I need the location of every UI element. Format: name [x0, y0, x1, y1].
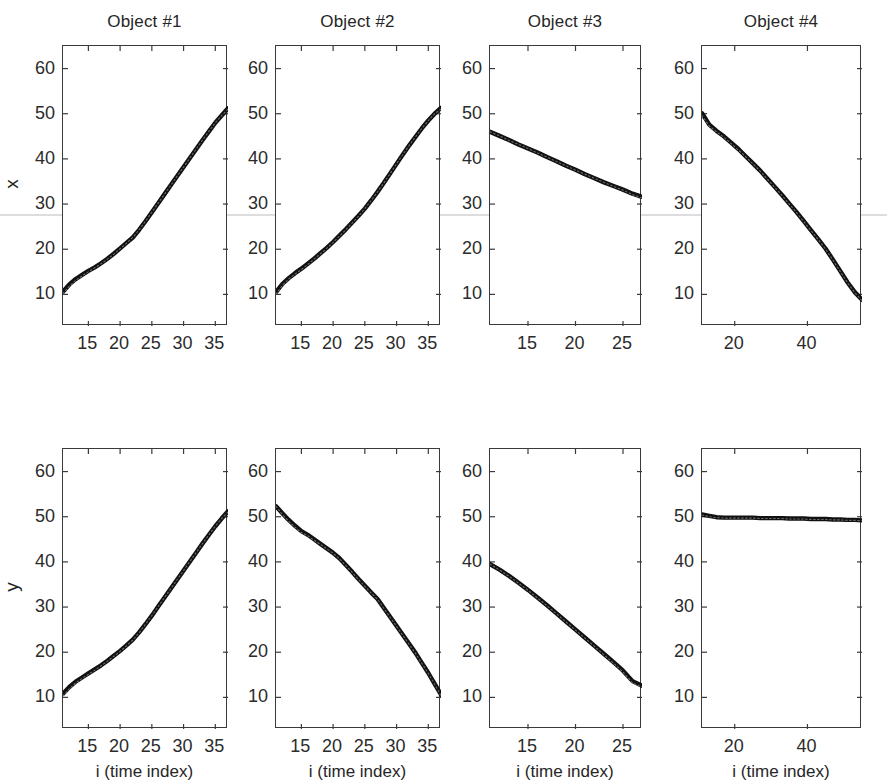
plot-panel-4: Object #41020304050602040 [0, 0, 887, 784]
xtick-label-1-25: 25 [141, 333, 161, 354]
yaxis-caption-x: x [1, 172, 23, 196]
xtick-label-5-15: 15 [77, 736, 97, 757]
ytick-label-2-10: 10 [223, 283, 268, 304]
ytick-label-4-40: 40 [649, 147, 694, 168]
ytick-label-7-30: 30 [437, 596, 482, 617]
plot-panel-7: 102030405060152025i (time index) [0, 0, 887, 784]
panel-title-4: Object #4 [701, 12, 861, 32]
xtick-label-3-15: 15 [517, 333, 537, 354]
yaxis-caption-y: y [1, 575, 23, 599]
ytick-label-8-40: 40 [649, 550, 694, 571]
xtick-label-3-20: 20 [564, 333, 584, 354]
plot-canvas-8 [702, 449, 862, 729]
ytick-label-8-10: 10 [649, 686, 694, 707]
ytick-label-8-60: 60 [649, 460, 694, 481]
plot-panel-8: 1020304050602040i (time index) [0, 0, 887, 784]
scan-artifact-line [0, 214, 887, 216]
ytick-label-2-40: 40 [223, 147, 268, 168]
ytick-label-3-20: 20 [437, 238, 482, 259]
xtick-label-2-35: 35 [417, 333, 437, 354]
ytick-label-1-40: 40 [10, 147, 55, 168]
xtick-label-5-30: 30 [173, 736, 193, 757]
xaxis-caption-7: i (time index) [516, 762, 613, 782]
ytick-label-4-10: 10 [649, 283, 694, 304]
plot-panel-6: 1020304050601520253035i (time index) [0, 0, 887, 784]
ytick-label-5-40: 40 [10, 550, 55, 571]
ytick-label-5-20: 20 [10, 641, 55, 662]
ytick-label-7-20: 20 [437, 641, 482, 662]
series-estimated-8 [702, 515, 862, 521]
plot-area-1 [62, 45, 227, 325]
xtick-label-2-25: 25 [354, 333, 374, 354]
ytick-label-5-10: 10 [10, 686, 55, 707]
series-measured-5 [63, 511, 228, 693]
ytick-label-1-20: 20 [10, 238, 55, 259]
ytick-label-7-40: 40 [437, 550, 482, 571]
ytick-label-8-50: 50 [649, 505, 694, 526]
xtick-label-7-20: 20 [564, 736, 584, 757]
ytick-label-2-50: 50 [223, 102, 268, 123]
plot-panel-2: Object #21020304050601520253035 [0, 0, 887, 784]
plot-panel-3: Object #3102030405060152025 [0, 0, 887, 784]
ytick-label-1-60: 60 [10, 57, 55, 78]
xtick-label-7-15: 15 [517, 736, 537, 757]
ytick-label-6-30: 30 [223, 596, 268, 617]
xtick-label-4-40: 40 [796, 333, 816, 354]
series-estimated-6 [276, 506, 441, 695]
xtick-label-6-20: 20 [322, 736, 342, 757]
ytick-label-5-30: 30 [10, 596, 55, 617]
ytick-label-7-10: 10 [437, 686, 482, 707]
ytick-label-8-30: 30 [649, 596, 694, 617]
ytick-label-1-10: 10 [10, 283, 55, 304]
panel-title-1: Object #1 [62, 12, 227, 32]
xtick-label-2-20: 20 [322, 333, 342, 354]
xtick-label-6-30: 30 [386, 736, 406, 757]
series-measured-8 [702, 514, 862, 520]
ytick-label-5-50: 50 [10, 505, 55, 526]
panel-title-2: Object #2 [275, 12, 440, 32]
xtick-label-5-35: 35 [204, 736, 224, 757]
ytick-label-4-30: 30 [649, 193, 694, 214]
ytick-label-3-50: 50 [437, 102, 482, 123]
plot-area-8 [701, 448, 861, 728]
xtick-label-2-30: 30 [386, 333, 406, 354]
series-measured-6 [276, 506, 441, 694]
xaxis-caption-5: i (time index) [96, 762, 193, 782]
ytick-label-6-60: 60 [223, 460, 268, 481]
ytick-label-2-60: 60 [223, 57, 268, 78]
ytick-label-7-50: 50 [437, 505, 482, 526]
ytick-label-1-50: 50 [10, 102, 55, 123]
ytick-label-3-60: 60 [437, 57, 482, 78]
series-estimated-4 [702, 116, 862, 301]
plot-panel-1: Object #11020304050601520253035x [0, 0, 887, 784]
ytick-label-6-20: 20 [223, 641, 268, 662]
ytick-label-5-60: 60 [10, 460, 55, 481]
ytick-label-6-10: 10 [223, 686, 268, 707]
plot-area-5 [62, 448, 227, 728]
plot-canvas-4 [702, 46, 862, 326]
ytick-label-3-30: 30 [437, 193, 482, 214]
xtick-label-6-15: 15 [290, 736, 310, 757]
ytick-label-1-30: 30 [10, 193, 55, 214]
xtick-label-7-25: 25 [612, 736, 632, 757]
xtick-label-4-20: 20 [724, 333, 744, 354]
ytick-label-2-20: 20 [223, 238, 268, 259]
ytick-label-3-10: 10 [437, 283, 482, 304]
plot-area-6 [275, 448, 440, 728]
xaxis-caption-8: i (time index) [732, 762, 829, 782]
xtick-label-1-20: 20 [109, 333, 129, 354]
xtick-label-6-35: 35 [417, 736, 437, 757]
ytick-label-3-40: 40 [437, 147, 482, 168]
plot-panel-5: 1020304050601520253035i (time index)y [0, 0, 887, 784]
plot-canvas-2 [276, 46, 441, 326]
series-estimated-2 [276, 109, 441, 294]
plot-canvas-3 [490, 46, 642, 326]
series-measured-4 [702, 113, 862, 300]
panel-title-3: Object #3 [489, 12, 641, 32]
xtick-label-5-25: 25 [141, 736, 161, 757]
xtick-label-2-15: 15 [290, 333, 310, 354]
series-estimated-3 [490, 132, 642, 198]
series-measured-7 [490, 564, 642, 685]
xtick-label-1-30: 30 [173, 333, 193, 354]
series-estimated-7 [490, 564, 642, 687]
